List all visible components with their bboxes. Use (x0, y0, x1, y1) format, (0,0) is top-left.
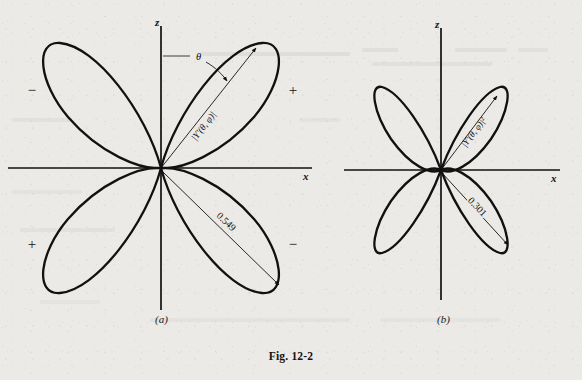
panel-b-quantity-label: |Y'(θ, φ)|² (459, 115, 488, 149)
panel-b-lobe-lower-left (374, 169, 441, 254)
panel-a-magnitude-value: 0.549 (215, 210, 239, 234)
panel-a-sign-upper-right: + (289, 82, 297, 98)
panel-a: z x − + + − θ |Y'(θ, φ)| (8, 16, 312, 310)
figure-12-2: z x − + + − θ |Y'(θ, φ)| (0, 0, 582, 380)
panel-a-lobe-lower-right (161, 168, 279, 293)
panel-b-caption: (b) (437, 313, 450, 325)
panel-a-caption: (a) (155, 313, 168, 325)
panel-a-theta-annotation: θ (163, 51, 227, 81)
panel-a-lobe-upper-left (43, 43, 161, 168)
figure-number-caption: Fig. 12-2 (0, 350, 582, 362)
panel-a-x-axis-label: x (302, 170, 309, 182)
panel-b-lobe-upper-left (374, 87, 441, 172)
panel-b-z-axis-label: z (434, 18, 440, 30)
panel-a-sign-upper-left: − (28, 82, 36, 98)
panel-a-lobe-upper-right (161, 43, 279, 168)
panel-a-radius-arrow (161, 48, 256, 168)
panel-a-sign-lower-left: + (28, 236, 36, 252)
panel-b: z x |Y'(θ, φ)|² 0.301 (344, 18, 560, 300)
panel-a-sign-lower-right: − (289, 236, 297, 252)
panel-b-magnitude-value: 0.301 (466, 195, 490, 219)
panel-a-lobe-lower-left (43, 168, 161, 293)
panel-b-magnitude-vector: |Y'(θ, φ)|² (441, 96, 497, 170)
panel-b-axes: z x (344, 18, 560, 300)
panel-a-theta-label: θ (196, 51, 201, 62)
panel-b-x-axis-label: x (550, 172, 557, 184)
panel-a-magnitude-vector: |Y'(θ, φ)| (161, 48, 256, 168)
panel-a-z-axis-label: z (154, 16, 160, 28)
